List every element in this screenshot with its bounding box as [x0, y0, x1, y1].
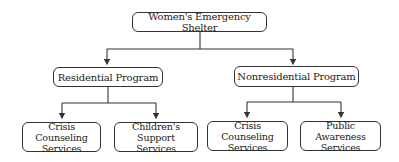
- node-womens-emergency-shelter: Women's Emergency Shelter: [132, 12, 267, 32]
- residential-connector: [62, 87, 156, 103]
- node-public-awareness: Public Awareness Services: [300, 121, 381, 151]
- node-label: Residential Program: [58, 72, 158, 83]
- node-childrens-support: Children's Support Services: [114, 122, 198, 152]
- node-label-line1: Crisis Counseling: [208, 120, 287, 142]
- node-nonresidential-program: Nonresidential Program: [234, 66, 359, 87]
- node-label-line1: Crisis Counseling: [23, 121, 100, 143]
- node-label-line2: Services: [136, 143, 176, 154]
- node-label-line2: Services: [228, 142, 268, 153]
- node-res-crisis-counseling: Crisis Counseling Services: [22, 122, 101, 152]
- node-residential-program: Residential Program: [53, 67, 163, 87]
- nonresidential-connector: [247, 87, 341, 102]
- node-label-line2: Services: [42, 143, 82, 154]
- node-label-line2: Services: [321, 142, 361, 153]
- node-label-line1: Children's Support: [115, 121, 197, 143]
- node-label: Nonresidential Program: [237, 71, 355, 82]
- node-label-line1: Public Awareness: [301, 120, 380, 142]
- node-non-crisis-counseling: Crisis Counseling Services: [207, 121, 288, 151]
- root-connector: [107, 31, 293, 49]
- node-label: Women's Emergency Shelter: [133, 11, 266, 33]
